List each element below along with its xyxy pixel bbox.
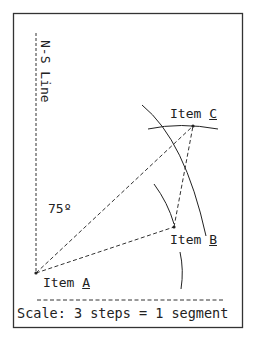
point-b bbox=[172, 225, 175, 228]
item-c-label: Item C bbox=[170, 107, 217, 120]
ns-line-label: N-S Line bbox=[38, 40, 53, 103]
line-b-c bbox=[174, 126, 193, 227]
arc-c-short bbox=[148, 126, 218, 130]
line-a-c bbox=[36, 126, 193, 273]
scale-label: Scale: 3 steps = 1 segment bbox=[17, 307, 228, 321]
angle-label: 75º bbox=[48, 202, 71, 215]
arc-b-upper bbox=[154, 184, 174, 224]
line-a-b bbox=[36, 227, 174, 273]
arc-c-long bbox=[142, 105, 206, 236]
point-a bbox=[34, 271, 37, 274]
arc-b-lower bbox=[180, 252, 182, 289]
item-b-label: Item B bbox=[170, 233, 217, 246]
item-a-label: Item A bbox=[43, 276, 90, 289]
